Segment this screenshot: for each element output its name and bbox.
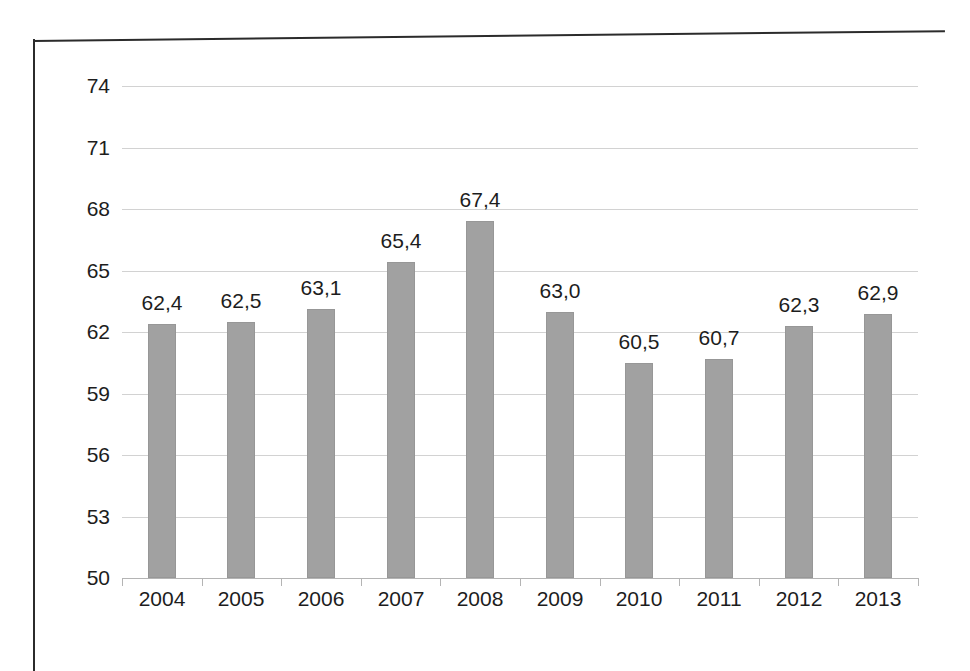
bar (387, 262, 415, 578)
x-axis-tick-mark (122, 578, 123, 586)
x-axis-tick-mark (520, 578, 521, 586)
bar (785, 326, 813, 578)
x-axis-category-label: 2012 (764, 588, 834, 609)
bar (227, 322, 255, 578)
gridline (122, 209, 918, 210)
bar (148, 324, 176, 578)
bar (864, 314, 892, 578)
x-axis-tick-mark (600, 578, 601, 586)
gridline (122, 148, 918, 149)
gridline (122, 271, 918, 272)
y-axis-tick-label: 74 (60, 75, 110, 96)
bar-value-label: 62,4 (127, 292, 197, 313)
y-axis-tick-label: 59 (60, 383, 110, 404)
bar-chart: 50535659626568717462,4200462,5200563,120… (0, 0, 970, 671)
scanned-page: 50535659626568717462,4200462,5200563,120… (0, 0, 970, 671)
bar-value-label: 67,4 (445, 189, 515, 210)
x-axis-tick-mark (679, 578, 680, 586)
bar (466, 221, 494, 578)
bar-value-label: 62,3 (764, 294, 834, 315)
x-axis-tick-mark (361, 578, 362, 586)
bar-value-label: 63,1 (286, 277, 356, 298)
bar-value-label: 62,5 (206, 290, 276, 311)
x-axis-tick-mark (918, 578, 919, 586)
x-axis-tick-mark (838, 578, 839, 586)
x-axis-category-label: 2011 (684, 588, 754, 609)
x-axis-category-label: 2009 (525, 588, 595, 609)
x-axis-category-label: 2005 (206, 588, 276, 609)
bar-value-label: 62,9 (843, 282, 913, 303)
bar (705, 359, 733, 578)
x-axis-category-label: 2010 (604, 588, 674, 609)
x-axis-tick-mark (281, 578, 282, 586)
y-axis-tick-label: 56 (60, 444, 110, 465)
bar-value-label: 60,5 (604, 331, 674, 352)
y-axis-tick-label: 71 (60, 137, 110, 158)
bar-value-label: 60,7 (684, 327, 754, 348)
bar (546, 312, 574, 578)
y-axis-tick-label: 62 (60, 321, 110, 342)
gridline (122, 86, 918, 87)
y-axis-tick-label: 65 (60, 260, 110, 281)
bar-value-label: 65,4 (366, 230, 436, 251)
bar-value-label: 63,0 (525, 280, 595, 301)
x-axis-category-label: 2004 (127, 588, 197, 609)
x-axis-category-label: 2013 (843, 588, 913, 609)
bar (625, 363, 653, 578)
y-axis-tick-label: 50 (60, 567, 110, 588)
y-axis-tick-label: 68 (60, 198, 110, 219)
x-axis-tick-mark (440, 578, 441, 586)
bar (307, 309, 335, 578)
x-axis-tick-mark (202, 578, 203, 586)
y-axis-tick-label: 53 (60, 506, 110, 527)
x-axis-category-label: 2008 (445, 588, 515, 609)
x-axis-category-label: 2007 (366, 588, 436, 609)
x-axis-category-label: 2006 (286, 588, 356, 609)
x-axis-tick-mark (759, 578, 760, 586)
